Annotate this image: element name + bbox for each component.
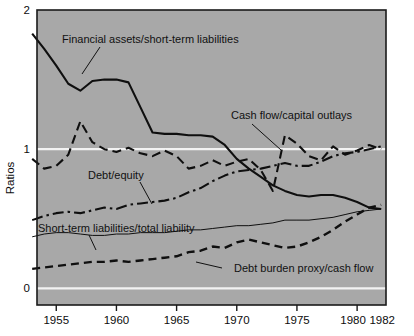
x-axis-tick-labels: 1955196019651970197519801982	[43, 314, 395, 326]
ytick-label-1: 1	[24, 143, 30, 155]
xtick-label-1982: 1982	[369, 314, 395, 326]
xtick-label-1965: 1965	[164, 314, 190, 326]
annotation-cash_flow_over_capital_outlays: Cash flow/capital outlays	[231, 109, 353, 121]
plot-background	[37, 10, 386, 305]
annotation-financial_assets_over_short_term_liabilities: Financial assets/short-term liabilities	[62, 33, 239, 45]
annotation-debt_over_equity: Debt/equity	[88, 169, 144, 181]
annotation-short_term_liabilities_over_total_liability: Short-term liabilities/total liability	[38, 222, 195, 234]
annotation-debt_burden_proxy_over_cash_flow: Debt burden proxy/cash flow	[234, 262, 373, 274]
y-axis-title: Ratios	[4, 161, 16, 194]
xtick-label-1975: 1975	[284, 314, 310, 326]
chart-figure: 1955196019651970197519801982 012 Ratios …	[0, 0, 414, 336]
ytick-label-2: 2	[24, 4, 30, 16]
ytick-label-0: 0	[24, 282, 30, 294]
ratios-line-chart: 1955196019651970197519801982 012 Ratios …	[0, 0, 414, 336]
y-axis-tick-labels: 012	[24, 4, 30, 294]
xtick-label-1980: 1980	[340, 314, 366, 326]
x-axis-ticks	[56, 305, 357, 311]
xtick-label-1970: 1970	[224, 314, 250, 326]
xtick-label-1960: 1960	[104, 314, 130, 326]
xtick-label-1955: 1955	[43, 314, 69, 326]
